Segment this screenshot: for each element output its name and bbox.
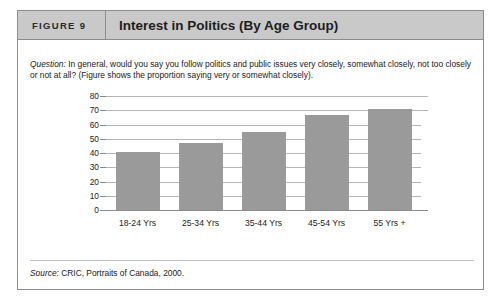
bar: [368, 109, 412, 210]
y-axis-tick-mark: [100, 182, 106, 183]
bar-chart: 01020304050607080 18-24 Yrs25-34 Yrs35-4…: [18, 92, 485, 232]
question-label: Question:: [30, 59, 66, 69]
y-axis-tick-label: 30: [73, 163, 99, 171]
y-axis-tick-label: 60: [73, 121, 99, 129]
y-axis-tick-label: 20: [73, 178, 99, 186]
figure-container: FIGURE 9 Interest in Politics (By Age Gr…: [17, 10, 484, 290]
y-axis-tick-mark: [100, 110, 106, 111]
y-axis-tick-mark: [100, 196, 106, 197]
bar: [305, 115, 349, 210]
source-text: CRIC, Portraits of Canada, 2000.: [59, 268, 184, 278]
y-axis-tick-mark: [100, 167, 106, 168]
y-axis-tick-mark: [100, 96, 106, 97]
y-axis-tick-mark: [100, 125, 106, 126]
bar: [116, 152, 160, 210]
question-text: In general, would you say you follow pol…: [30, 59, 471, 80]
gridline: [106, 96, 428, 97]
page-title: Interest in Politics (By Age Group): [119, 18, 338, 33]
source-label: Source:: [30, 268, 59, 278]
question-note: Question: In general, would you say you …: [30, 59, 474, 82]
y-axis-tick-label: 40: [73, 149, 99, 157]
figure-header-band: FIGURE 9 Interest in Politics (By Age Gr…: [18, 11, 483, 40]
y-axis-tick-mark: [100, 139, 106, 140]
y-axis-tick-label: 80: [73, 92, 99, 100]
bar: [242, 132, 286, 210]
y-axis-tick-label: 10: [73, 192, 99, 200]
source-note: Source: CRIC, Portraits of Canada, 2000.: [30, 268, 184, 278]
y-axis-tick-label: 70: [73, 106, 99, 114]
y-axis-tick-label: 50: [73, 135, 99, 143]
x-axis-tick-label: 55 Yrs +: [350, 218, 430, 228]
bar: [179, 143, 223, 210]
chart-x-axis-line: [106, 210, 428, 211]
y-axis-tick-mark: [100, 153, 106, 154]
figure-number-label: FIGURE 9: [32, 20, 86, 31]
figure-body: Question: In general, would you say you …: [18, 40, 483, 289]
figure-number-cell: FIGURE 9: [18, 11, 106, 39]
y-axis-tick-label: 0: [73, 206, 99, 214]
chart-plot-area: 01020304050607080 18-24 Yrs25-34 Yrs35-4…: [106, 96, 421, 210]
source-divider: [30, 260, 474, 261]
figure-title-cell: Interest in Politics (By Age Group): [106, 11, 483, 39]
